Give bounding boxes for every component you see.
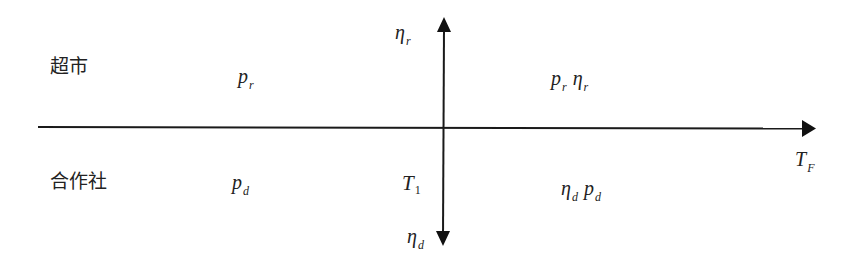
region-term: ηr [573, 68, 589, 88]
vertical-axis-top-label: ηr [395, 22, 411, 42]
region-top-right: pr ηr [551, 68, 588, 88]
threshold-label: T1 [402, 173, 421, 194]
vertical-axis-up-arrow-icon [437, 17, 451, 32]
term-main: p [551, 67, 561, 89]
term-sub: d [595, 190, 601, 204]
term-main: p [584, 177, 594, 199]
term-main: p [232, 171, 242, 193]
vertical-axis-down-arrow-icon [436, 231, 450, 246]
term-sub: d [243, 184, 249, 198]
label-sub: d [418, 238, 424, 252]
label-sub: 1 [415, 183, 421, 197]
region-term: pd [584, 178, 601, 198]
horizontal-axis-label: TF [795, 149, 814, 169]
region-bottom-left: pd [232, 172, 249, 192]
region-term: ηd [561, 178, 578, 198]
row-label-supermarket: 超市 [50, 57, 88, 76]
term-sub: d [572, 190, 578, 204]
label-sub: r [406, 34, 411, 48]
label-main: T [402, 171, 414, 195]
term-sub: r [562, 80, 567, 94]
term-main: η [561, 177, 571, 199]
term-main: η [573, 67, 583, 89]
strategy-diagram: 超市 合作社 ηr ηd TF T1 pr pr ηr pd ηd [0, 0, 846, 265]
label-main: η [395, 21, 405, 43]
label-main: η [407, 225, 417, 247]
row-label-cooperative: 合作社 [50, 172, 107, 191]
region-bottom-right: ηd pd [561, 178, 601, 198]
term-sub: r [249, 78, 254, 92]
term-main: p [238, 65, 248, 87]
label-main: T [795, 148, 806, 170]
vertical-axis-line [443, 28, 444, 236]
region-term: pr [238, 66, 254, 86]
label-sub: F [807, 161, 814, 175]
horizontal-axis-arrow-icon [802, 120, 816, 137]
vertical-axis-bottom-label: ηd [407, 226, 424, 246]
region-term: pd [232, 172, 249, 192]
term-sub: r [584, 80, 589, 94]
region-term: pr [551, 68, 567, 88]
horizontal-axis-line [38, 127, 806, 129]
region-top-left: pr [238, 66, 254, 86]
